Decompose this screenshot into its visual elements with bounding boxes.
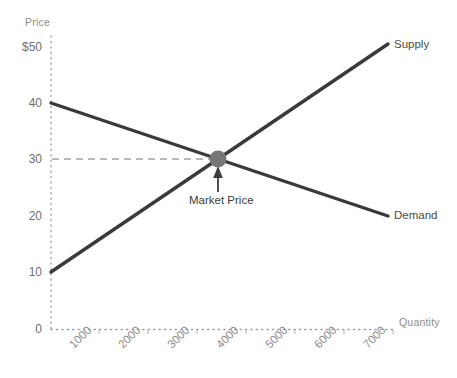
- market-price-arrow: [213, 166, 223, 192]
- supply-demand-chart: Price Quantity $50 40 30 20 10 0 1000 20…: [0, 0, 457, 378]
- demand-series-label: Demand: [394, 209, 437, 221]
- y-tick-label-30: 30: [2, 152, 42, 166]
- market-price-marker: [210, 151, 227, 168]
- price-axis-title: Price: [25, 16, 50, 28]
- chart-canvas: [0, 0, 457, 378]
- y-tick-label-50: $50: [2, 40, 42, 54]
- y-tick-label-10: 10: [2, 265, 42, 279]
- y-tick-label-0: 0: [2, 322, 42, 336]
- x-axis-ticks: [99, 330, 393, 334]
- market-price-annotation-label: Market Price: [189, 194, 254, 206]
- y-tick-label-20: 20: [2, 209, 42, 223]
- y-tick-label-40: 40: [2, 96, 42, 110]
- quantity-axis-title: Quantity: [399, 316, 440, 328]
- supply-series-label: Supply: [394, 38, 429, 50]
